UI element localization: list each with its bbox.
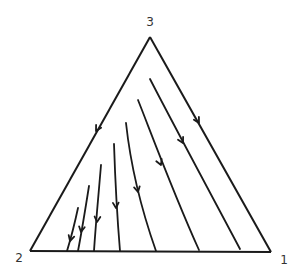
edge-3-2 (30, 37, 150, 251)
triangle-edges (30, 37, 271, 252)
trajectory-6 (78, 186, 89, 251)
trajectory-3 (126, 123, 156, 251)
trajectory-2-arrow-icon (156, 159, 161, 165)
trajectory-2 (138, 100, 199, 250)
vertex-labels: 321 (15, 15, 288, 267)
simplex-diagram: 321 (0, 0, 301, 272)
vertex-label-1: 1 (280, 253, 288, 267)
trajectories (67, 79, 240, 251)
trajectory-4 (114, 144, 120, 251)
trajectory-5 (94, 165, 101, 251)
vertex-label-3: 3 (146, 15, 154, 29)
edge-3-1 (150, 37, 271, 252)
vertex-label-2: 2 (15, 251, 23, 265)
trajectory-7 (67, 208, 78, 251)
